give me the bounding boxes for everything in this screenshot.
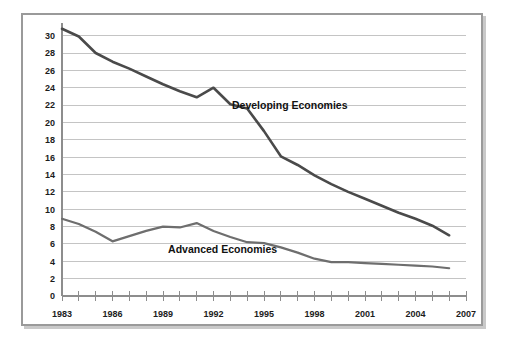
- y-tick-label: 30: [45, 31, 55, 41]
- y-tick-label: 8: [50, 222, 55, 232]
- line-chart-plot: 024681012141618202224262830 198319861989…: [23, 15, 481, 324]
- y-tick-label: 18: [45, 135, 55, 145]
- x-tick-label: 2004: [405, 309, 425, 319]
- chart-figure: 024681012141618202224262830 198319861989…: [0, 0, 506, 346]
- y-tick-label: 2: [50, 274, 55, 284]
- y-tick-label: 12: [45, 187, 55, 197]
- x-tick-label: 1992: [203, 309, 223, 319]
- x-tick-label: 1995: [254, 309, 274, 319]
- y-tick-label: 22: [45, 100, 55, 110]
- series-line-developing-economies: [62, 29, 449, 236]
- x-tick-label: 1989: [153, 309, 173, 319]
- x-tick-label: 1983: [52, 309, 72, 319]
- y-tick-label: 24: [45, 83, 55, 93]
- y-tick-labels: 024681012141618202224262830: [45, 31, 55, 301]
- x-tick-label: 2001: [355, 309, 375, 319]
- chart-frame: 024681012141618202224262830 198319861989…: [21, 13, 483, 326]
- x-tick-label: 2007: [456, 309, 476, 319]
- x-tick-label: 1998: [304, 309, 324, 319]
- y-tick-label: 6: [50, 239, 55, 249]
- y-tick-label: 4: [50, 257, 55, 267]
- y-tick-label: 0: [50, 291, 55, 301]
- x-tick-labels: 198319861989199219951998200120042007: [52, 309, 476, 319]
- series-label-developing-economies: Developing Economies: [232, 99, 348, 111]
- y-tick-label: 14: [45, 170, 55, 180]
- series-label-advanced-economies: Advanced Economies: [168, 243, 277, 255]
- data-series-group: [62, 29, 449, 268]
- y-tick-label: 28: [45, 48, 55, 58]
- y-tick-label: 10: [45, 205, 55, 215]
- x-tick-label: 1986: [102, 309, 122, 319]
- y-tick-label: 20: [45, 118, 55, 128]
- y-tick-label: 16: [45, 153, 55, 163]
- y-tick-label: 26: [45, 66, 55, 76]
- x-axis: [62, 291, 466, 301]
